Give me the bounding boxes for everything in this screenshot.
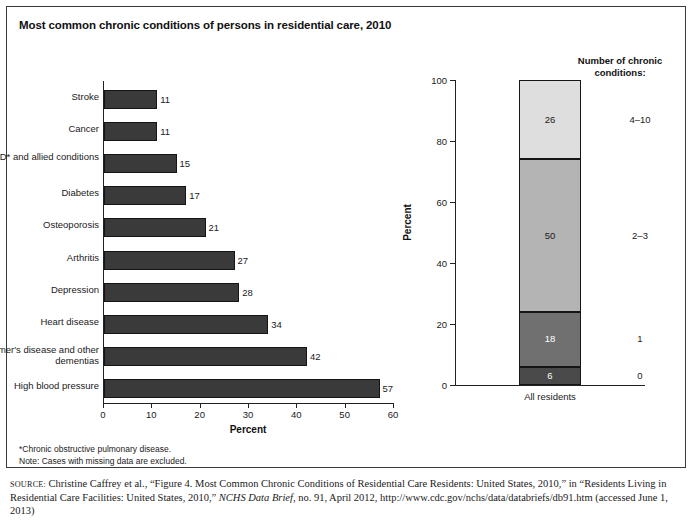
legend-entry: 0 bbox=[595, 370, 685, 381]
bar-row: Heart disease34 bbox=[7, 306, 407, 328]
legend-entry: 4–10 bbox=[595, 114, 685, 125]
bar bbox=[104, 154, 177, 173]
bar-row: COPD* and allied conditions15 bbox=[7, 145, 407, 167]
bar-value-label: 17 bbox=[189, 186, 200, 205]
bar-category-label: COPD* and allied conditions bbox=[0, 151, 99, 162]
bar-value-label: 34 bbox=[271, 315, 282, 334]
x-axis-tick-label: 0 bbox=[100, 409, 105, 420]
footnote-copd: *Chronic obstructive pulmonary disease. bbox=[19, 444, 187, 456]
x-axis-tick-label: 10 bbox=[146, 409, 157, 420]
bar bbox=[104, 90, 157, 109]
y-axis-tick-label: 40 bbox=[421, 258, 447, 269]
bar-category-label: High blood pressure bbox=[0, 380, 99, 391]
bar-value-label: 28 bbox=[242, 283, 253, 302]
bar-value-label: 11 bbox=[160, 90, 170, 109]
bar-row: Stroke11 bbox=[7, 81, 407, 103]
legend-entry: 2–3 bbox=[595, 230, 685, 241]
x-axis-tick-label: 20 bbox=[194, 409, 205, 420]
bar-category-label: Stroke bbox=[0, 91, 99, 102]
figure-frame: Most common chronic conditions of person… bbox=[6, 6, 686, 468]
bar-row: Osteoporosis21 bbox=[7, 210, 407, 232]
bar bbox=[104, 315, 268, 334]
bar-row: Cancer11 bbox=[7, 113, 407, 135]
x-axis-tick bbox=[151, 403, 152, 408]
source-publication-title: NCHS Data Brief bbox=[219, 492, 293, 503]
bar bbox=[104, 379, 380, 398]
stacked-bar-chart: Number of chronic conditions: Percent 02… bbox=[407, 47, 692, 445]
right-chart-y-axis-line bbox=[455, 80, 456, 385]
y-axis-tick bbox=[450, 263, 455, 264]
y-axis-tick bbox=[450, 324, 455, 325]
x-axis-tick-label: 30 bbox=[243, 409, 254, 420]
x-axis-tick bbox=[393, 403, 394, 408]
y-axis-tick-label: 100 bbox=[421, 75, 447, 86]
x-axis-tick bbox=[200, 403, 201, 408]
stack-segment-value: 18 bbox=[519, 333, 581, 344]
x-axis-tick bbox=[345, 403, 346, 408]
y-axis-tick bbox=[450, 385, 455, 386]
bar-value-label: 27 bbox=[238, 251, 249, 270]
bar-value-label: 11 bbox=[160, 122, 170, 141]
x-axis-tick bbox=[103, 403, 104, 408]
bar bbox=[104, 218, 206, 237]
legend-title: Number of chronic conditions: bbox=[555, 55, 685, 79]
x-axis-tick-label: 50 bbox=[339, 409, 350, 420]
stack-segment-value: 6 bbox=[519, 370, 581, 381]
horizontal-bar-chart: Stroke11Cancer11COPD* and allied conditi… bbox=[7, 75, 407, 445]
x-axis-tick bbox=[296, 403, 297, 408]
stack-segment-value: 26 bbox=[519, 114, 581, 125]
bar-value-label: 15 bbox=[180, 154, 191, 173]
footnote-note: Note: Cases with missing data are exclud… bbox=[19, 456, 187, 468]
bar-category-label: Depression bbox=[0, 284, 99, 295]
x-axis-tick-label: 60 bbox=[388, 409, 399, 420]
bar bbox=[104, 186, 186, 205]
bar-row: Arthritis27 bbox=[7, 242, 407, 264]
y-axis-tick-label: 0 bbox=[421, 380, 447, 391]
bar bbox=[104, 347, 307, 366]
stack-segment-value: 50 bbox=[519, 230, 581, 241]
right-chart-x-axis-line bbox=[455, 385, 645, 386]
bar-category-label: Cancer bbox=[0, 123, 99, 134]
bar-row: Depression28 bbox=[7, 274, 407, 296]
bar-category-label: Alzheimer's disease and other dementias bbox=[0, 344, 99, 366]
y-axis-tick bbox=[450, 202, 455, 203]
x-axis-tick-label: 40 bbox=[291, 409, 302, 420]
bar bbox=[104, 283, 239, 302]
bar-row: Diabetes17 bbox=[7, 178, 407, 200]
bar-value-label: 21 bbox=[209, 218, 220, 237]
bar-category-label: Diabetes bbox=[0, 187, 99, 198]
bar bbox=[104, 251, 235, 270]
bar-row: High blood pressure57 bbox=[7, 371, 407, 393]
bar-value-label: 42 bbox=[310, 347, 321, 366]
bar-category-label: Osteoporosis bbox=[0, 219, 99, 230]
bar-category-label: Arthritis bbox=[0, 252, 99, 263]
source-citation: source: Christine Caffrey et al., “Figur… bbox=[10, 477, 682, 518]
right-chart-y-axis-label: Percent bbox=[402, 204, 413, 241]
y-axis-tick-label: 20 bbox=[421, 319, 447, 330]
page-title: Most common chronic conditions of person… bbox=[19, 19, 391, 31]
y-axis-tick-label: 60 bbox=[421, 197, 447, 208]
bar bbox=[104, 122, 157, 141]
bar-category-label: Heart disease bbox=[0, 316, 99, 327]
left-chart-x-axis-label: Percent bbox=[103, 424, 393, 435]
y-axis-tick bbox=[450, 80, 455, 81]
bar-value-label: 57 bbox=[383, 379, 394, 398]
stacked-bar-column: 6185026 bbox=[519, 80, 581, 385]
x-axis-tick bbox=[248, 403, 249, 408]
y-axis-tick-label: 80 bbox=[421, 136, 447, 147]
y-axis-tick bbox=[450, 141, 455, 142]
footnotes: *Chronic obstructive pulmonary disease. … bbox=[19, 444, 187, 467]
legend-entry: 1 bbox=[595, 333, 685, 344]
source-label: source: bbox=[10, 480, 46, 489]
bar-row: Alzheimer's disease and other dementias4… bbox=[7, 339, 407, 361]
right-chart-x-axis-label: All residents bbox=[485, 391, 615, 402]
